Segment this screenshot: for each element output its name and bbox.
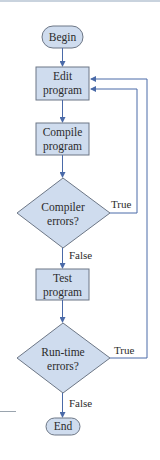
edit-program-label-line2: program — [36, 84, 89, 97]
runtime-errors-label-line2: errors? — [23, 360, 103, 373]
compiler-true-label: True — [111, 198, 131, 210]
compiler-false-label: False — [69, 249, 92, 261]
runtime-false-label: False — [69, 397, 92, 409]
end-label: End — [46, 420, 80, 433]
runtime-true-label: True — [114, 344, 134, 356]
test-program-label-line1: Test — [36, 272, 89, 285]
compile-program-label-line2: program — [36, 140, 89, 153]
begin-label: Begin — [42, 31, 83, 44]
compiler-errors-label-line1: Compiler — [23, 201, 103, 214]
runtime-errors-label-line1: Run-time — [23, 346, 103, 359]
edge-compiler-true-loop — [91, 89, 137, 213]
flowchart-canvas — [0, 0, 160, 460]
compiler-errors-label-line2: errors? — [23, 215, 103, 228]
compile-program-label-line1: Compile — [36, 126, 89, 139]
test-program-label-line2: program — [36, 286, 89, 299]
edit-program-label-line1: Edit — [36, 70, 89, 83]
